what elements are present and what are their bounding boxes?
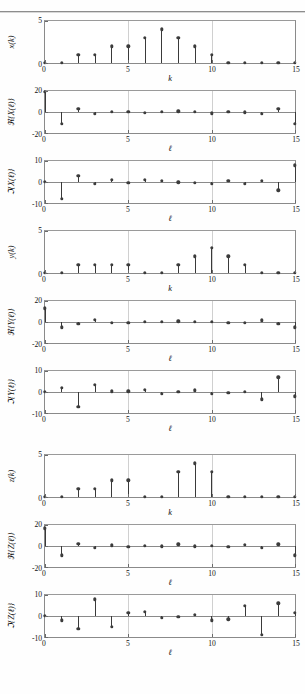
stem-marker	[210, 246, 213, 249]
x-tick-mark	[128, 60, 129, 63]
stem-marker	[193, 254, 196, 257]
stem-marker	[60, 618, 63, 621]
y-tick-mark	[45, 595, 48, 596]
stem-marker	[227, 61, 230, 64]
y-tick-label: 0	[20, 612, 42, 621]
baseline-zero	[45, 392, 295, 393]
stem-line	[195, 463, 196, 497]
x-tick-label: 10	[208, 639, 216, 648]
x-tick-mark	[45, 634, 46, 637]
stem-line	[178, 472, 179, 497]
stem-marker	[210, 112, 213, 115]
stem-line	[95, 599, 96, 616]
stem-marker	[93, 597, 96, 600]
stem-marker	[177, 181, 180, 184]
y-tick-label: 5	[20, 450, 42, 459]
stem-marker	[227, 254, 230, 257]
y-tick-mark	[45, 63, 48, 64]
y-axis-label: z(k)	[7, 453, 16, 499]
y-tick-label: 0	[20, 60, 42, 69]
stem-line	[45, 528, 46, 546]
x-tick-mark	[45, 340, 46, 343]
stem-marker	[260, 112, 263, 115]
stem-marker	[110, 625, 113, 628]
stem-marker	[193, 462, 196, 465]
x-axis-label: k	[168, 284, 172, 293]
stem-marker	[260, 495, 263, 498]
stem-marker	[210, 470, 213, 473]
stem-marker	[143, 178, 146, 181]
y-tick-label: 0	[20, 494, 42, 503]
y-tick-mark	[45, 91, 48, 92]
stem-marker	[60, 326, 63, 329]
stem-marker	[193, 181, 196, 184]
stem-marker	[143, 111, 146, 114]
x-tick-label: 0	[42, 345, 46, 354]
x-tick-mark	[128, 494, 129, 497]
stem-line	[228, 256, 229, 273]
stem-marker	[177, 36, 180, 39]
y-axis-label: ℑ{Z(ℓ)}	[6, 593, 16, 639]
x-tick-mark	[128, 564, 129, 567]
plot-axes	[44, 300, 296, 344]
x-tick-label: 10	[208, 499, 216, 508]
stem-marker	[77, 405, 80, 408]
baseline-zero	[45, 182, 295, 183]
stem-marker	[60, 122, 63, 125]
stem-marker	[243, 111, 246, 114]
x-tick-label: 5	[126, 65, 130, 74]
stem-marker	[243, 321, 246, 324]
stem-marker	[77, 322, 80, 325]
stem-marker	[193, 44, 196, 47]
stem-marker	[277, 322, 280, 325]
y-tick-mark	[45, 301, 48, 302]
stem-marker	[160, 271, 163, 274]
x-tick-label: 15	[292, 569, 300, 578]
stem-marker	[60, 271, 63, 274]
stem-marker	[77, 263, 80, 266]
x-tick-label: 0	[42, 65, 46, 74]
x-tick-label: 0	[42, 205, 46, 214]
x-axis-label: ℓ	[168, 354, 172, 363]
stem-marker	[277, 376, 280, 379]
y-tick-mark	[45, 322, 48, 323]
y-tick-mark	[45, 392, 48, 393]
stem-marker	[77, 174, 80, 177]
x-tick-label: 5	[126, 639, 130, 648]
figure-page: 05051015kx(k)-20020051015ℓℜ{X(ℓ)}-100100…	[0, 0, 305, 694]
x-tick-mark	[295, 634, 296, 637]
x-tick-mark	[45, 270, 46, 273]
x-tick-label: 5	[126, 205, 130, 214]
x-tick-label: 15	[292, 135, 300, 144]
x-tick-label: 5	[126, 135, 130, 144]
stem-marker	[160, 495, 163, 498]
plot-axes	[44, 454, 296, 498]
stem-marker	[77, 53, 80, 56]
stem-marker	[77, 487, 80, 490]
x-tick-mark	[212, 60, 213, 63]
stem-marker	[277, 271, 280, 274]
y-axis-label: ℑ{X(ℓ)}	[6, 159, 16, 205]
x-axis-label: ℓ	[168, 578, 172, 587]
x-tick-mark	[295, 270, 296, 273]
stem-marker	[93, 112, 96, 115]
baseline-zero	[45, 322, 295, 323]
stem-line	[145, 38, 146, 63]
y-tick-mark	[45, 413, 48, 414]
y-tick-label: 10	[20, 156, 42, 165]
x-axis-label: ℓ	[168, 424, 172, 433]
x-axis-label: ℓ	[168, 144, 172, 153]
x-tick-mark	[212, 200, 213, 203]
stem-plot-panel: -20020051015ℓℜ{X(ℓ)}	[0, 86, 305, 156]
stem-marker	[160, 545, 163, 548]
stem-marker	[277, 602, 280, 605]
y-tick-mark	[45, 525, 48, 526]
x-tick-label: 10	[208, 65, 216, 74]
y-tick-mark	[45, 21, 48, 22]
y-tick-label: -20	[20, 340, 42, 349]
stem-line	[111, 480, 112, 497]
stem-marker	[60, 554, 63, 557]
stem-marker	[43, 307, 46, 310]
stem-plot-panel: -10010051015ℓℑ{Z(ℓ)}	[0, 590, 305, 660]
x-tick-mark	[295, 130, 296, 133]
